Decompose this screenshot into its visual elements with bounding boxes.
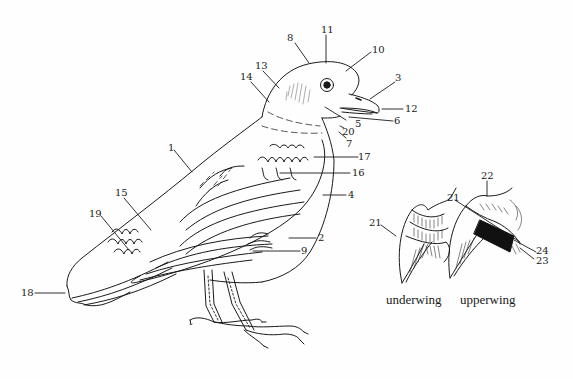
wing-details bbox=[131, 140, 325, 283]
label-21-upperwing-alula: 21 bbox=[447, 193, 460, 203]
label-8-crown: 8 bbox=[287, 33, 293, 43]
label-24-speculum: 24 bbox=[536, 246, 549, 256]
label-6-lower-mandible: 6 bbox=[394, 116, 400, 126]
diagram-canvas: 1 2 3 4 5 6 7 8 9 10 11 12 13 14 15 16 1… bbox=[0, 0, 573, 379]
bird-body-outline bbox=[67, 62, 359, 306]
label-1-back: 1 bbox=[168, 143, 174, 153]
label-13-nape: 13 bbox=[255, 61, 268, 71]
label-7-throat: 7 bbox=[346, 139, 352, 149]
eye-pupil-icon bbox=[324, 82, 330, 88]
label-10-forehead: 10 bbox=[372, 45, 385, 55]
label-4-breast: 4 bbox=[348, 190, 354, 200]
label-21-underwing-alula: 21 bbox=[369, 218, 382, 228]
bird-illustration bbox=[0, 0, 573, 379]
caption-underwing: underwing bbox=[386, 293, 442, 306]
label-3-upper-mandible: 3 bbox=[395, 73, 401, 83]
label-12-bill-tip: 12 bbox=[405, 104, 418, 114]
label-22-scapulars: 22 bbox=[481, 171, 494, 181]
label-2-belly: 2 bbox=[318, 233, 324, 243]
label-14-hindneck: 14 bbox=[240, 72, 253, 82]
label-20-chin: 20 bbox=[342, 127, 355, 137]
label-5-lores: 5 bbox=[355, 119, 361, 129]
legs-and-feet bbox=[190, 270, 308, 348]
label-16-wing-coverts: 16 bbox=[352, 168, 365, 178]
label-23-secondaries: 23 bbox=[536, 256, 549, 266]
tail-feathers bbox=[72, 229, 176, 305]
label-19-rump: 19 bbox=[89, 209, 102, 219]
label-15-tertials: 15 bbox=[115, 188, 128, 198]
caption-upperwing: upperwing bbox=[460, 293, 516, 306]
label-11-crown-top: 11 bbox=[321, 25, 334, 35]
head-details bbox=[262, 79, 379, 134]
leader-lines bbox=[35, 35, 536, 293]
label-9-flanks: 9 bbox=[301, 246, 307, 256]
label-17-lesser-coverts: 17 bbox=[358, 152, 371, 162]
label-18-tail: 18 bbox=[21, 288, 34, 298]
